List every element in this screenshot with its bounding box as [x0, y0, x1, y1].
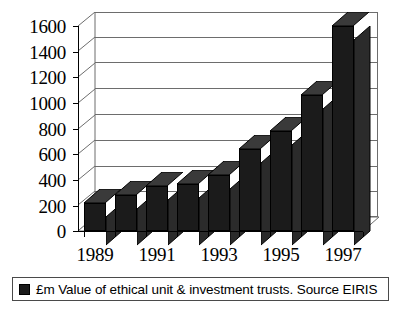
x-tick-2: [146, 232, 147, 237]
x-axis-label-1993: 1993: [189, 245, 249, 264]
y-tick-0: [73, 231, 79, 232]
x-tick-8: [332, 232, 333, 237]
y-axis-label-0: 0: [4, 222, 66, 241]
bar-1991[interactable]: [146, 172, 168, 231]
bar-1992[interactable]: [177, 170, 199, 231]
y-axis-label-400: 400: [4, 171, 66, 190]
y-axis-label-1200: 1200: [4, 68, 66, 87]
x-axis-line: [78, 231, 363, 232]
plot-area: 1600 1400 1200 1000 800 600 400 200 0 19…: [0, 0, 401, 312]
y-tick-200: [73, 206, 79, 207]
y-tick-1200: [73, 77, 79, 78]
x-axis-label-1997: 1997: [313, 245, 373, 264]
y-axis-label-800: 800: [4, 120, 66, 139]
y-axis-label-1000: 1000: [4, 94, 66, 113]
bar-1990[interactable]: [115, 181, 137, 231]
y-axis-label-1400: 1400: [4, 43, 66, 62]
x-tick-1: [115, 232, 116, 237]
bar-1997[interactable]: [332, 12, 354, 231]
y-tick-1400: [73, 52, 79, 53]
x-axis-label-1989: 1989: [65, 245, 125, 264]
bar-chart: 1600 1400 1200 1000 800 600 400 200 0 19…: [0, 0, 401, 312]
bar-1994[interactable]: [239, 135, 261, 231]
x-tick-4: [208, 232, 209, 237]
x-tick-3: [177, 232, 178, 237]
x-tick-0: [84, 232, 85, 237]
x-tick-6: [270, 232, 271, 237]
y-tick-1000: [73, 103, 79, 104]
bar-1993[interactable]: [208, 161, 230, 231]
x-tick-9: [363, 232, 364, 237]
bar-1995[interactable]: [270, 117, 292, 231]
y-axis-label-1600: 1600: [4, 17, 66, 36]
chart-legend: £m Value of ethical unit & investment tr…: [12, 277, 389, 301]
y-axis-label-600: 600: [4, 145, 66, 164]
y-tick-800: [73, 129, 79, 130]
y-tick-600: [73, 154, 79, 155]
bar-1989[interactable]: [84, 189, 106, 231]
x-axis-label-1995: 1995: [251, 245, 311, 264]
y-tick-1600: [73, 26, 79, 27]
bar-1996[interactable]: [301, 81, 323, 231]
y-axis-label-200: 200: [4, 197, 66, 216]
legend-swatch-icon: [19, 284, 30, 295]
x-tick-5: [239, 232, 240, 237]
x-tick-7: [301, 232, 302, 237]
y-tick-400: [73, 180, 79, 181]
legend-series-label: £m Value of ethical unit & investment tr…: [36, 282, 377, 297]
x-axis-label-1991: 1991: [127, 245, 187, 264]
